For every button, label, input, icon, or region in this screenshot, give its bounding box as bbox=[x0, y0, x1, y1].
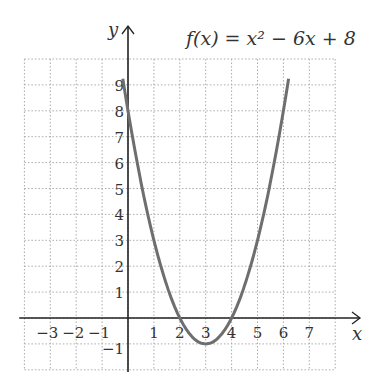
y-tick-label: 1 bbox=[114, 284, 124, 302]
x-tick-label: −2 bbox=[62, 324, 84, 342]
y-tick-label: 5 bbox=[114, 181, 124, 199]
y-tick-label: 4 bbox=[114, 206, 124, 224]
x-axis-label: x bbox=[352, 323, 362, 344]
x-tick-label: 6 bbox=[279, 324, 289, 342]
y-tick-label: 8 bbox=[114, 103, 124, 121]
x-tick-label: 5 bbox=[253, 324, 263, 342]
y-tick-label: −1 bbox=[102, 340, 124, 358]
x-tick-label: 3 bbox=[201, 324, 211, 342]
plot: −3−2−11234567−1123456789xyf(x) = x² − 6x… bbox=[0, 0, 388, 385]
function-title: f(x) = x² − 6x + 8 bbox=[184, 27, 356, 49]
y-tick-label: 7 bbox=[114, 129, 124, 147]
y-tick-label: 3 bbox=[114, 232, 124, 250]
y-tick-label: 2 bbox=[114, 258, 124, 276]
y-axis-label: y bbox=[107, 19, 119, 40]
chart: −3−2−11234567−1123456789xyf(x) = x² − 6x… bbox=[0, 0, 388, 385]
x-tick-label: 1 bbox=[149, 324, 159, 342]
x-tick-label: −3 bbox=[36, 324, 58, 342]
y-tick-label: 6 bbox=[114, 155, 124, 173]
x-tick-label: 7 bbox=[305, 324, 315, 342]
